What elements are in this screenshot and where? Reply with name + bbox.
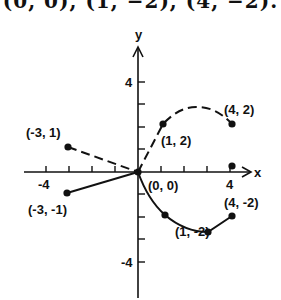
point-origin [134, 168, 141, 175]
x-tick-label-neg4: -4 [38, 177, 50, 192]
dashed-segment-left [68, 147, 138, 172]
point-1-2 [159, 120, 166, 127]
label-4-2: (4, 2) [224, 102, 254, 117]
y-axis: y 4 -4 [121, 27, 145, 298]
point-4-2 [228, 120, 235, 127]
coordinate-plot: x -4 4 y 4 -4 [0, 0, 281, 300]
point-labels: (-3, 1) (-3, -1) (0, 0) (1, 2) (4, 2) (1… [26, 102, 259, 239]
solid-segment-left [67, 172, 138, 193]
point-4-0 [228, 162, 235, 169]
y-tick-label-4: 4 [125, 75, 133, 90]
label-neg3-neg1: (-3, -1) [28, 202, 67, 217]
label-1-neg2: (1, -2) [175, 224, 210, 239]
point-neg3-1 [64, 143, 71, 150]
x-axis-label: x [254, 165, 262, 180]
point-neg3-neg1 [63, 189, 70, 196]
y-tick-label-neg4: -4 [121, 255, 133, 270]
point-4-neg2 [228, 212, 235, 219]
label-4-neg2: (4, -2) [224, 195, 259, 210]
label-origin: (0, 0) [148, 178, 178, 193]
y-axis-label: y [135, 27, 143, 42]
label-1-2: (1, 2) [161, 133, 191, 148]
label-neg3-1: (-3, 1) [26, 125, 61, 140]
point-1-neg2 [161, 211, 168, 218]
x-axis: x -4 4 [24, 165, 262, 192]
x-tick-label-4: 4 [226, 177, 234, 192]
